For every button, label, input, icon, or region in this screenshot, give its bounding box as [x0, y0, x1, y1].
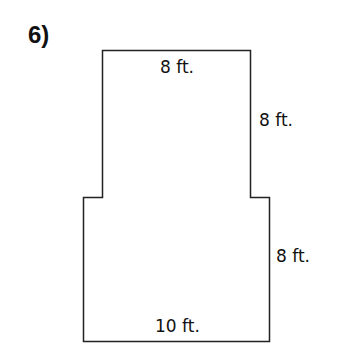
diagram-canvas: 6) 8 ft. 8 ft. 8 ft. 10 ft.: [0, 0, 353, 348]
lower-height-label: 8 ft.: [276, 248, 310, 265]
lower-width-label: 10 ft.: [155, 318, 200, 335]
shape-outline-path: [84, 51, 270, 342]
composite-shape-outline: [0, 0, 353, 348]
upper-width-label: 8 ft.: [160, 59, 194, 76]
upper-height-label: 8 ft.: [259, 112, 293, 129]
